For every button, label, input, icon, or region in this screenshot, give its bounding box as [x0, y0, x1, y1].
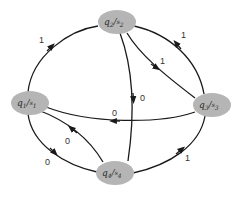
edge-label-q2-q3: 1	[160, 56, 165, 66]
edge-q1-q2: 1	[28, 26, 98, 92]
edge-label-q4-q1: 0	[65, 136, 70, 146]
edge-q2-q3: 1	[127, 33, 195, 98]
node-q4: q4/s4	[96, 161, 134, 185]
edge-q1-q4: 0	[28, 114, 97, 172]
edge-label-q1-q4: 0	[45, 157, 50, 167]
node-q3: q3/s3	[193, 93, 231, 117]
edge-label-q4-q3: 1	[185, 153, 190, 163]
edge-q3-q1: 0	[46, 107, 195, 121]
state-diagram: 1 1 1 0 0 0 0 1	[0, 0, 235, 200]
node-q2: q2/s2	[98, 10, 136, 34]
node-q1: q1/s1	[11, 91, 49, 115]
edge-label-q2-q4: 0	[140, 93, 145, 103]
edge-label-q1-q2: 1	[39, 35, 44, 45]
edge-label-q3-q1: 0	[112, 108, 117, 118]
edge-label-q3-q2: 1	[181, 30, 186, 40]
edge-q4-q3: 1	[133, 116, 205, 173]
edge-q3-q2: 1	[134, 26, 204, 94]
